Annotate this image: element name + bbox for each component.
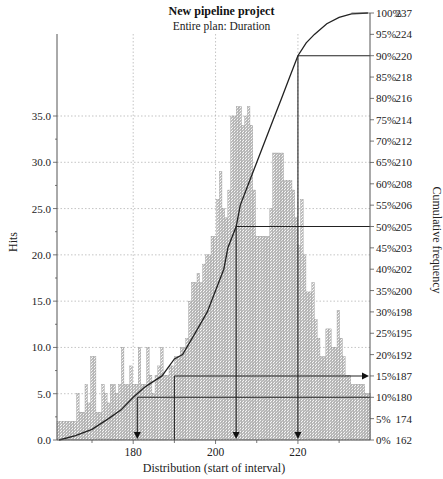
y2-tick-pct: 5%	[376, 413, 391, 425]
histogram-bar	[219, 172, 222, 440]
histogram-bar	[303, 255, 306, 440]
y2-tick-pct: 45%	[376, 242, 396, 254]
plot-area: 0.05.010.015.020.025.030.035.01802002201…	[0, 0, 443, 479]
histogram-bar	[222, 209, 225, 440]
histogram-chart: New pipeline project Entire plan: Durati…	[0, 0, 443, 479]
y2-tick-value: 202	[396, 263, 413, 275]
histogram-bar	[253, 190, 256, 440]
y-tick-label: 35.0	[32, 110, 52, 122]
y2-tick-pct: 80%	[376, 92, 396, 104]
y2-tick-pct: 35%	[376, 285, 396, 297]
histogram-bar	[77, 394, 80, 440]
histogram-bar	[155, 375, 158, 440]
histogram-bar	[91, 357, 94, 440]
histogram-bar	[270, 209, 273, 440]
y2-tick-pct: 20%	[376, 349, 396, 361]
histogram-bar	[197, 273, 200, 440]
y2-tick-value: 210	[396, 156, 413, 168]
histogram-bar	[245, 116, 248, 440]
histogram-bar	[343, 357, 346, 440]
y-tick-label: 10.0	[32, 341, 52, 353]
histogram-bar	[306, 292, 309, 440]
y-tick-label: 15.0	[32, 295, 52, 307]
histogram-bar	[144, 384, 147, 440]
y2-tick-pct: 25%	[376, 327, 396, 339]
histogram-bar	[121, 347, 124, 440]
y-tick-label: 5.0	[37, 388, 51, 400]
histogram-bar	[214, 236, 217, 440]
y2-tick-pct: 15%	[376, 370, 396, 382]
histogram-bars	[57, 107, 370, 440]
histogram-bar	[133, 384, 136, 440]
histogram-bar	[354, 384, 357, 440]
histogram-bar	[152, 394, 155, 440]
x-tick-label: 200	[207, 446, 225, 458]
histogram-bar	[301, 199, 304, 440]
histogram-bar	[326, 329, 329, 440]
histogram-bar	[60, 421, 63, 440]
y2-tick-value: 208	[396, 178, 413, 190]
histogram-bar	[74, 421, 77, 440]
y2-tick-value: 224	[396, 28, 413, 40]
histogram-bar	[359, 384, 362, 440]
histogram-bar	[175, 357, 178, 440]
histogram-bar	[191, 283, 194, 440]
histogram-bar	[340, 338, 343, 440]
histogram-bar	[365, 394, 368, 440]
y2-tick-value: 200	[396, 285, 413, 297]
histogram-bar	[259, 236, 262, 440]
histogram-bar	[205, 255, 208, 440]
y2-tick-value: 214	[396, 114, 413, 126]
histogram-bar	[102, 384, 105, 440]
histogram-bar	[292, 190, 295, 440]
histogram-bar	[351, 384, 354, 440]
x-axis-label: Distribution (start of interval)	[143, 461, 285, 475]
y2-tick-value: 220	[396, 50, 413, 62]
y2-tick-pct: 65%	[376, 156, 396, 168]
y2-tick-value: 212	[396, 135, 413, 147]
histogram-bar	[345, 375, 348, 440]
histogram-bar	[79, 412, 82, 440]
y2-tick-pct: 10%	[376, 391, 396, 403]
histogram-bar	[239, 107, 242, 440]
histogram-bar	[309, 292, 312, 440]
histogram-bar	[208, 255, 211, 440]
histogram-bar	[362, 384, 365, 440]
y2-tick-pct: 85%	[376, 71, 396, 83]
histogram-bar	[116, 394, 119, 440]
y2-tick-value: 216	[396, 92, 413, 104]
x-tick-label: 180	[125, 446, 143, 458]
histogram-bar	[163, 375, 166, 440]
histogram-bar	[138, 347, 141, 440]
y2-tick-value: 180	[396, 391, 413, 403]
y-axis-label: Hits	[6, 232, 20, 252]
histogram-bar	[312, 283, 315, 440]
histogram-bar	[231, 116, 234, 440]
histogram-bar	[217, 199, 220, 440]
histogram-bar	[357, 384, 360, 440]
y2-tick-value: 237	[396, 7, 413, 19]
y2-tick-value: 205	[396, 221, 413, 233]
histogram-bar	[194, 283, 197, 440]
histogram-bar	[82, 412, 85, 440]
y2-tick-pct: 90%	[376, 50, 396, 62]
histogram-bar	[200, 283, 203, 440]
histogram-bar	[141, 384, 144, 440]
histogram-bar	[211, 236, 214, 440]
histogram-bar	[267, 236, 270, 440]
y2-tick-value: 198	[396, 306, 413, 318]
histogram-bar	[334, 347, 337, 440]
y2-tick-pct: 40%	[376, 263, 396, 275]
histogram-bar	[203, 264, 206, 440]
histogram-bar	[348, 375, 351, 440]
histogram-bar	[233, 116, 236, 440]
histogram-bar	[161, 347, 164, 440]
y2-tick-pct: 95%	[376, 28, 396, 40]
y2-tick-pct: 70%	[376, 135, 396, 147]
y2-tick-value: 218	[396, 71, 413, 83]
histogram-bar	[284, 181, 287, 440]
y2-tick-value: 195	[396, 327, 413, 339]
y2-tick-value: 174	[396, 413, 413, 425]
histogram-bar	[110, 384, 113, 440]
x-tick-label: 220	[289, 446, 307, 458]
